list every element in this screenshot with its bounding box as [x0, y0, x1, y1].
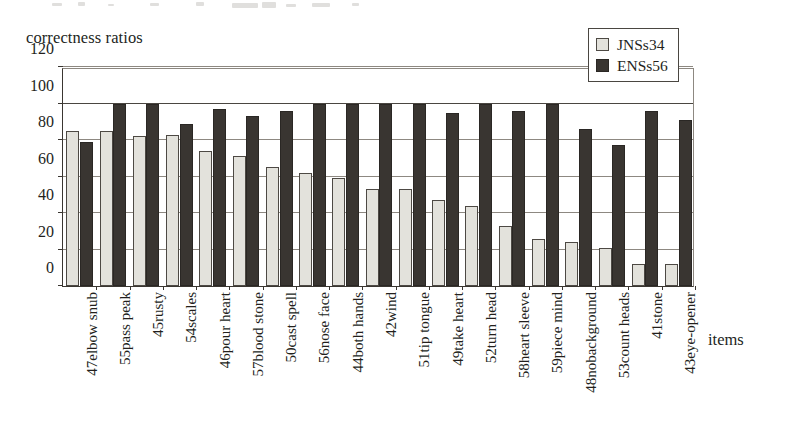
x-axis-label: 59piece mind [550, 292, 565, 373]
bar-ENSs56 [146, 104, 159, 287]
x-axis-label: 55pass peak [118, 292, 133, 365]
bar-group [396, 69, 429, 286]
x-axis-label: 44both hands [351, 292, 366, 372]
bar-group [63, 69, 96, 286]
bar-ENSs56 [113, 104, 126, 287]
bar-group [529, 69, 562, 286]
legend-item-JNSs34: JNSs34 [596, 34, 668, 55]
x-axis-labels: 47elbow snub55pass peak45rusty54scales46… [62, 292, 694, 420]
legend-swatch-JNSs34 [596, 38, 609, 51]
bar-ENSs56 [213, 109, 226, 286]
x-tick-mark [429, 286, 430, 290]
bar-JNSs34 [432, 200, 445, 286]
bars-layer [63, 69, 693, 286]
x-axis-title: items [708, 330, 744, 350]
x-axis-label: 56nose face [317, 292, 332, 363]
x-tick-mark [628, 286, 629, 290]
bar-JNSs34 [332, 178, 345, 286]
bar-group [130, 69, 163, 286]
bar-JNSs34 [599, 248, 612, 286]
bar-JNSs34 [565, 242, 578, 286]
legend-item-ENSs56: ENSs56 [596, 55, 668, 76]
bar-group [628, 69, 661, 286]
x-tick-mark [329, 286, 330, 290]
bar-chart: correctness ratios 020406080100120 47elb… [0, 0, 787, 444]
x-axis-label: 58heart sleeve [517, 292, 532, 378]
legend-label: ENSs56 [617, 57, 668, 75]
bar-group [296, 69, 329, 286]
bar-ENSs56 [346, 104, 359, 287]
x-axis-label: 47elbow snub [85, 292, 100, 376]
x-tick-mark [462, 286, 463, 290]
y-tick-label-60: 60 [38, 150, 54, 168]
bar-group [562, 69, 595, 286]
legend: JNSs34ENSs56 [588, 28, 679, 82]
x-tick-mark [529, 286, 530, 290]
bar-group [263, 69, 296, 286]
bar-JNSs34 [632, 264, 645, 286]
x-tick-mark [562, 286, 563, 290]
bar-ENSs56 [413, 104, 426, 287]
y-tick-label-100: 100 [30, 77, 54, 95]
bar-group [462, 69, 495, 286]
bar-ENSs56 [313, 104, 326, 287]
x-axis-label: 42wind [384, 292, 399, 337]
x-axis-label: 48nobackground [584, 292, 599, 393]
bar-group [196, 69, 229, 286]
bar-JNSs34 [366, 189, 379, 286]
bar-ENSs56 [280, 111, 293, 286]
x-tick-mark [130, 286, 131, 290]
bar-ENSs56 [579, 129, 592, 286]
bar-ENSs56 [246, 116, 259, 286]
x-axis-label: 51tip tongue [417, 292, 432, 367]
bar-ENSs56 [180, 124, 193, 286]
x-axis-label: 41stone [650, 292, 665, 339]
bar-ENSs56 [80, 142, 93, 286]
bar-JNSs34 [199, 151, 212, 286]
bar-JNSs34 [399, 189, 412, 286]
bar-group [362, 69, 395, 286]
bar-JNSs34 [499, 226, 512, 286]
x-tick-mark [595, 286, 596, 290]
x-axis-label: 46pour heart [218, 292, 233, 368]
x-tick-mark [296, 286, 297, 290]
y-tick-mark-120 [58, 66, 63, 67]
plot-area: 020406080100120 [62, 68, 694, 287]
legend-label: JNSs34 [617, 36, 664, 54]
x-axis-label: 54scales [184, 292, 199, 343]
bar-group [495, 69, 528, 286]
y-tick-label-80: 80 [38, 113, 54, 131]
x-axis-label: 45rusty [151, 292, 166, 337]
x-tick-mark [96, 286, 97, 290]
bar-group [229, 69, 262, 286]
x-tick-mark [196, 286, 197, 290]
bar-group [662, 69, 695, 286]
x-tick-mark [495, 286, 496, 290]
x-tick-mark [695, 286, 696, 290]
bar-ENSs56 [512, 111, 525, 286]
x-tick-mark [662, 286, 663, 290]
y-tick-label-40: 40 [38, 186, 54, 204]
legend-swatch-ENSs56 [596, 59, 609, 72]
x-axis-label: 43eye-opener [683, 292, 698, 374]
bar-JNSs34 [100, 131, 113, 286]
bar-JNSs34 [532, 239, 545, 286]
bar-JNSs34 [465, 206, 478, 286]
x-tick-mark [229, 286, 230, 290]
bar-group [163, 69, 196, 286]
bar-ENSs56 [645, 111, 658, 286]
x-axis-label: 53count heads [617, 292, 632, 378]
x-tick-mark [263, 286, 264, 290]
x-axis-label: 52turn head [484, 292, 499, 363]
bar-ENSs56 [446, 113, 459, 286]
x-axis-label: 49take heart [451, 292, 466, 366]
x-tick-mark [396, 286, 397, 290]
bar-ENSs56 [612, 145, 625, 286]
bar-JNSs34 [133, 136, 146, 286]
bar-JNSs34 [233, 156, 246, 286]
x-axis-label: 50cast spell [284, 292, 299, 362]
y-tick-label-20: 20 [38, 223, 54, 241]
bar-group [96, 69, 129, 286]
x-tick-mark [362, 286, 363, 290]
y-tick-label-0: 0 [46, 259, 54, 277]
